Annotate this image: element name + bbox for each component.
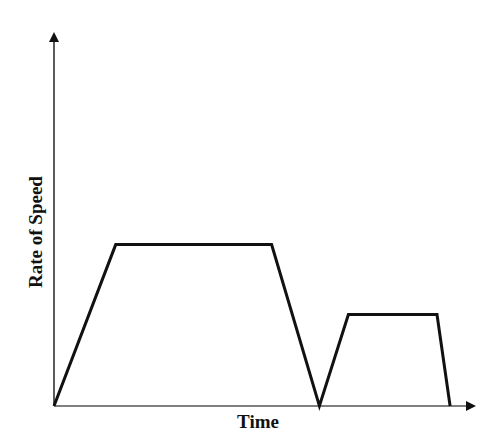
speed-profile-line [54, 245, 450, 406]
speed-time-chart [0, 0, 497, 448]
y-axis-label: Rate of Speed [25, 176, 47, 288]
x-axis-label: Time [237, 411, 279, 433]
